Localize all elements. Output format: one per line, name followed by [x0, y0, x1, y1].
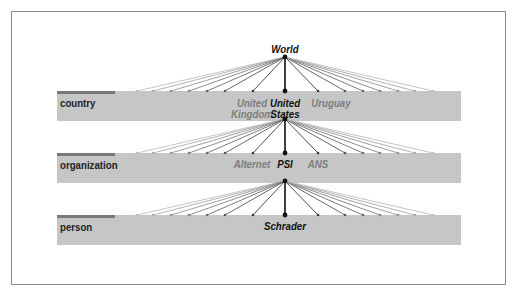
node-label-line: States [254, 109, 316, 120]
node-label-line: Uruguay [300, 98, 362, 109]
node-label-ans: ANS [287, 159, 349, 170]
node-label-world: World [259, 44, 312, 55]
node-label-uruguay: Uruguay [300, 98, 362, 109]
node-label-line: ANS [287, 159, 349, 170]
node-label-schrader: Schrader [254, 221, 316, 232]
node-label-line: Schrader [254, 221, 316, 232]
